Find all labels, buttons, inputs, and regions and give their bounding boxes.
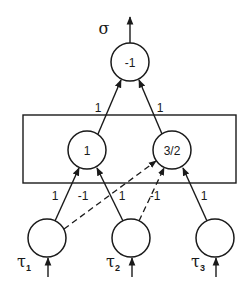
output-label-sigma: σ	[99, 21, 110, 37]
weight-tau2-h1: 1	[119, 190, 126, 202]
output-node-threshold: -1	[125, 57, 136, 69]
weight-h2-output: 1	[157, 102, 164, 114]
hidden-node-1-threshold: 1	[84, 145, 91, 157]
network-diagram	[0, 0, 249, 287]
input-label-tau3: τ3	[191, 254, 205, 273]
input-label-tau2: τ2	[106, 254, 120, 273]
weight-tau3-h2: 1	[201, 190, 208, 202]
input-node-tau2	[112, 219, 150, 257]
weight-tau1-h2: -1	[78, 190, 89, 202]
weight-tau2-h2: -1	[150, 190, 161, 202]
weight-h1-output: 1	[95, 102, 102, 114]
hidden-node-2-threshold: 3/2	[164, 145, 181, 157]
input-label-tau1: τ1	[17, 254, 31, 273]
input-node-tau1	[28, 219, 66, 257]
weight-tau1-h1: 1	[52, 190, 59, 202]
hidden-layer-box	[23, 115, 236, 183]
input-node-tau3	[196, 219, 234, 257]
